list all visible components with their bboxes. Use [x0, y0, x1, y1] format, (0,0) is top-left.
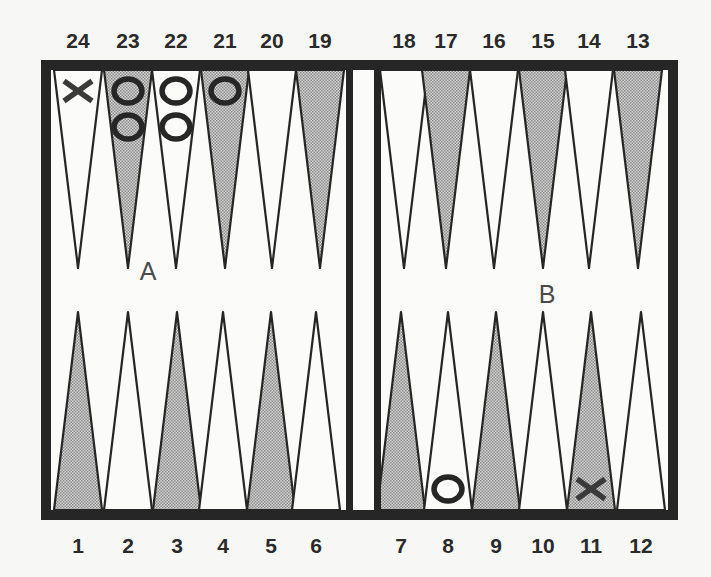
point-number-21: 21 [213, 29, 237, 52]
zone-label-a: A [140, 257, 157, 285]
point-number-13: 13 [626, 29, 649, 52]
point-number-5: 5 [265, 534, 277, 557]
point-number-7: 7 [395, 534, 407, 557]
point-number-15: 15 [531, 29, 555, 52]
point-number-9: 9 [490, 534, 502, 557]
point-number-10: 10 [531, 534, 554, 557]
point-number-23: 23 [116, 29, 139, 52]
point-number-22: 22 [164, 29, 187, 52]
point-number-2: 2 [122, 534, 134, 557]
point-number-16: 16 [482, 29, 505, 52]
point-number-11: 11 [580, 534, 603, 557]
point-number-20: 20 [260, 29, 283, 52]
point-number-3: 3 [171, 534, 183, 557]
zone-label-b: B [539, 280, 556, 308]
point-number-24: 24 [66, 29, 90, 52]
bar-left-edge [346, 65, 353, 515]
point-number-1: 1 [72, 534, 84, 557]
point-number-8: 8 [442, 534, 454, 557]
point-number-17: 17 [434, 29, 457, 52]
point-number-18: 18 [392, 29, 416, 52]
point-number-12: 12 [629, 534, 652, 557]
point-number-6: 6 [310, 534, 322, 557]
top-point-numbers: 242322212019181716151413 [66, 29, 649, 52]
point-number-19: 19 [308, 29, 331, 52]
bottom-point-numbers: 123456789101112 [72, 534, 653, 557]
bar-center [353, 70, 374, 510]
point-number-4: 4 [217, 534, 229, 557]
backgammon-board: 242322212019181716151413 123456789101112… [0, 0, 711, 577]
point-number-14: 14 [577, 29, 601, 52]
bar-right-edge [374, 65, 381, 515]
